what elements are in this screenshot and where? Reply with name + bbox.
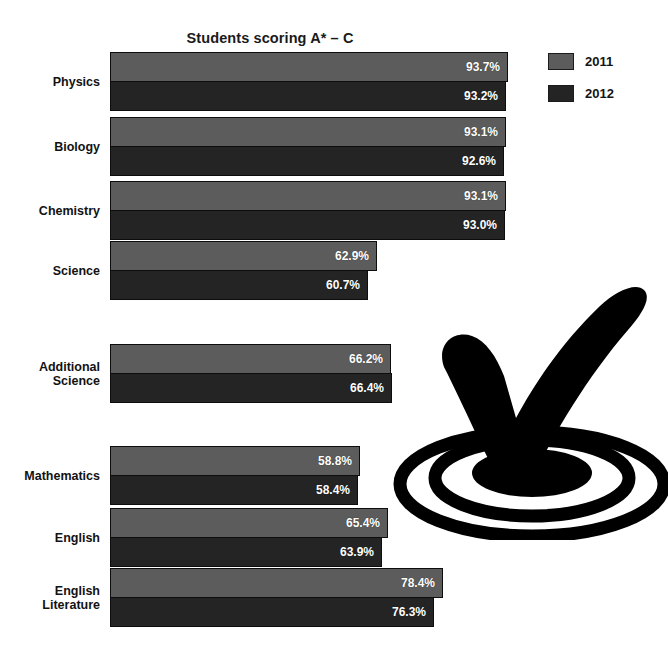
bar-biology-2011[interactable]: 93.1% — [110, 117, 506, 147]
bar-biology-2012[interactable]: 92.6% — [110, 146, 504, 176]
bar-stack: 93.1%93.0% — [110, 181, 506, 240]
bar-stack: 58.8%58.4% — [110, 446, 360, 505]
bar-value-label: 66.2% — [349, 352, 390, 366]
category-label-physics: Physics — [0, 75, 100, 89]
bar-mathematics-2012[interactable]: 58.4% — [110, 475, 358, 505]
bar-stack: 78.4%76.3% — [110, 568, 443, 627]
chart-legend: 2011 2012 — [548, 48, 658, 112]
bar-english-literature-2012[interactable]: 76.3% — [110, 597, 434, 627]
bar-group: Physics93.7%93.2% — [0, 52, 540, 112]
bar-value-label: 66.4% — [350, 381, 391, 395]
bar-physics-2011[interactable]: 93.7% — [110, 52, 508, 82]
bar-group: English65.4%63.9% — [0, 508, 540, 568]
bar-group: Chemistry93.1%93.0% — [0, 181, 540, 241]
legend-label-2012: 2012 — [585, 86, 614, 101]
bar-group: Biology93.1%92.6% — [0, 117, 540, 177]
bar-chemistry-2012[interactable]: 93.0% — [110, 210, 505, 240]
plot-area: Physics93.7%93.2%Biology93.1%92.6%Chemis… — [0, 0, 540, 661]
bar-group: Mathematics58.8%58.4% — [0, 446, 540, 506]
bar-mathematics-2011[interactable]: 58.8% — [110, 446, 360, 476]
bar-chemistry-2011[interactable]: 93.1% — [110, 181, 506, 211]
bar-english-2011[interactable]: 65.4% — [110, 508, 388, 538]
legend-swatch-2011 — [548, 53, 574, 70]
bar-stack: 93.1%92.6% — [110, 117, 506, 176]
legend-swatch-2012 — [548, 85, 574, 102]
bar-stack: 65.4%63.9% — [110, 508, 388, 567]
category-label-english: English — [0, 531, 100, 545]
bar-value-label: 58.8% — [318, 454, 359, 468]
legend-label-2011: 2011 — [585, 54, 613, 69]
bar-value-label: 76.3% — [392, 605, 433, 619]
bar-physics-2012[interactable]: 93.2% — [110, 81, 506, 111]
category-label-science: Science — [0, 264, 100, 278]
bar-science-2011[interactable]: 62.9% — [110, 241, 377, 271]
category-label-biology: Biology — [0, 140, 100, 154]
bar-additional-science-2012[interactable]: 66.4% — [110, 373, 392, 403]
legend-item-2012[interactable]: 2012 — [548, 80, 658, 106]
category-label-mathematics: Mathematics — [0, 469, 100, 483]
category-label-additional-science: AdditionalScience — [0, 360, 100, 388]
bar-value-label: 63.9% — [340, 545, 381, 559]
bar-value-label: 78.4% — [401, 576, 442, 590]
bar-stack: 93.7%93.2% — [110, 52, 508, 111]
bar-additional-science-2011[interactable]: 66.2% — [110, 344, 391, 374]
bar-value-label: 93.1% — [464, 189, 505, 203]
bar-science-2012[interactable]: 60.7% — [110, 270, 368, 300]
bar-value-label: 65.4% — [346, 516, 387, 530]
bar-group: EnglishLiterature78.4%76.3% — [0, 568, 540, 628]
bar-group: AdditionalScience66.2%66.4% — [0, 344, 540, 404]
bar-stack: 62.9%60.7% — [110, 241, 377, 300]
bar-english-literature-2011[interactable]: 78.4% — [110, 568, 443, 598]
bar-value-label: 58.4% — [316, 483, 357, 497]
bar-value-label: 92.6% — [462, 154, 503, 168]
bar-value-label: 93.2% — [464, 89, 505, 103]
bar-group: Science62.9%60.7% — [0, 241, 540, 301]
legend-item-2011[interactable]: 2011 — [548, 48, 658, 74]
bar-value-label: 62.9% — [335, 249, 376, 263]
category-label-english-literature: EnglishLiterature — [0, 584, 100, 612]
bar-stack: 66.2%66.4% — [110, 344, 392, 403]
bar-value-label: 93.0% — [463, 218, 504, 232]
chart-root: Students scoring A* – C 2011 2012 Physic… — [0, 0, 668, 661]
bar-english-2012[interactable]: 63.9% — [110, 537, 382, 567]
category-label-chemistry: Chemistry — [0, 204, 100, 218]
bar-value-label: 93.7% — [466, 60, 507, 74]
bar-value-label: 93.1% — [464, 125, 505, 139]
bar-value-label: 60.7% — [326, 278, 367, 292]
